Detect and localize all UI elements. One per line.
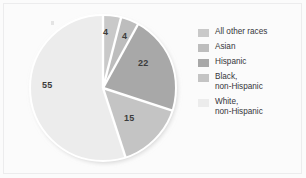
legend-swatch-icon: [198, 44, 209, 52]
legend-swatch-icon: [198, 59, 209, 67]
legend-label: All other races: [215, 27, 267, 37]
slice-label-black-non-hispanic: 15: [124, 113, 134, 123]
slice-label-white-non-hispanic: 55: [42, 80, 52, 90]
legend-item-hispanic: Hispanic: [198, 57, 302, 67]
legend-label: Hispanic: [215, 57, 246, 67]
pie-chart-figure: 4 4 22 15 55 All other races Asian Hispa…: [0, 0, 306, 178]
legend-item-black-non-hispanic: Black, non-Hispanic: [198, 72, 302, 92]
slice-label-asian: 4: [122, 31, 127, 41]
legend-label: Black, non-Hispanic: [215, 72, 263, 92]
legend-item-white-non-hispanic: White, non-Hispanic: [198, 97, 302, 117]
slice-label-all-other-races: 4: [103, 27, 108, 37]
legend-swatch-icon: [198, 74, 209, 82]
legend-label: White, non-Hispanic: [215, 97, 263, 117]
legend-item-all-other-races: All other races: [198, 27, 302, 37]
legend-label: Asian: [215, 42, 235, 52]
legend: All other races Asian Hispanic Black, no…: [198, 27, 302, 122]
legend-item-asian: Asian: [198, 42, 302, 52]
slice-label-hispanic: 22: [138, 58, 148, 68]
legend-swatch-icon: [198, 99, 209, 107]
legend-swatch-icon: [198, 29, 209, 37]
